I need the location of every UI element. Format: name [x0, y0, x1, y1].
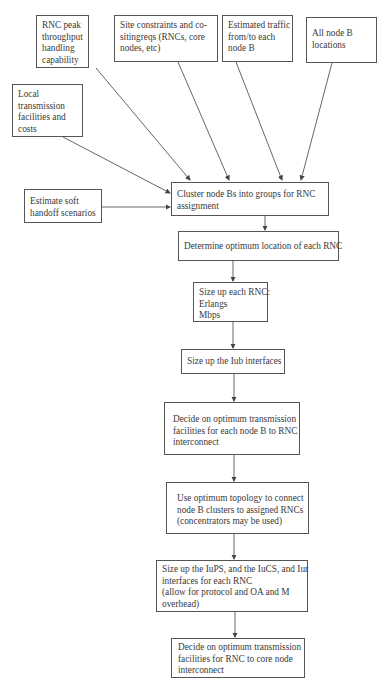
- input-all-nodeb-locations: All node B locations: [306, 17, 377, 63]
- input-soft-handoff: Estimate soft handoff scenarios: [24, 189, 102, 223]
- step-size-iu-interfaces: Size up the IuPS, and the IuCS, and Iur …: [156, 560, 308, 612]
- step-decide-rnc-core: Decide on optimum transmission facilitie…: [171, 638, 305, 678]
- input-rnc-peak-throughput: RNC peak throughput handling capability: [36, 15, 89, 68]
- input-site-constraints: Site constraints and co- sitingreqs (RNC…: [114, 15, 218, 62]
- arrow-local-to-cluster: [63, 137, 170, 193]
- arrow-site-to-cluster: [178, 62, 229, 180]
- step-size-rnc: Size up each RNC: Erlangs Mbps: [193, 282, 268, 322]
- step-cluster-nodebs: Cluster node Bs into groups for RNC assi…: [171, 182, 329, 216]
- arrow-traffic-to-cluster: [236, 62, 282, 180]
- input-local-transmission: Local transmission facilities and costs: [12, 84, 83, 137]
- input-estimated-traffic: Estimated traffic from/to each node B: [222, 15, 293, 62]
- arrow-rnc-peak-to-cluster: [96, 68, 190, 180]
- arrow-nodeb-to-cluster: [301, 63, 332, 180]
- step-decide-nodeb-rnc: Decide on optimum transmission facilitie…: [164, 402, 300, 455]
- step-topology: Use optimum topology to connect node B c…: [166, 482, 309, 534]
- step-size-iub: Size up the Iub interfaces: [181, 349, 285, 374]
- step-determine-location: Determine optimum location of each RNC: [178, 231, 339, 261]
